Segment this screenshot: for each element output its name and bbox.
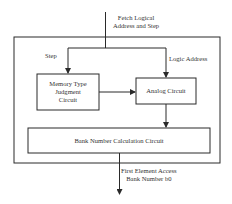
memory-type-line3: Circuit (59, 96, 77, 104)
step-label: Step (45, 52, 57, 60)
memory-type-text: Memory Type Judgment Circuit (37, 74, 99, 110)
input-label-line2: Address and Step (113, 22, 159, 30)
memory-type-line2: Judgment (55, 88, 81, 96)
analog-circuit-text: Analog Circuit (136, 78, 196, 104)
diagram-canvas (0, 0, 232, 204)
bank-number-text: Bank Number Calculation Circuit (28, 128, 210, 153)
input-label-line1: Fetch Logical (113, 14, 159, 22)
logic-address-label: Logic Address (169, 55, 207, 63)
memory-type-line1: Memory Type (49, 80, 86, 88)
output-label-line2: Bank Number b0 (121, 175, 177, 183)
output-label: First Element Access Bank Number b0 (121, 167, 177, 183)
input-label: Fetch Logical Address and Step (113, 14, 159, 30)
output-label-line1: First Element Access (121, 167, 177, 175)
